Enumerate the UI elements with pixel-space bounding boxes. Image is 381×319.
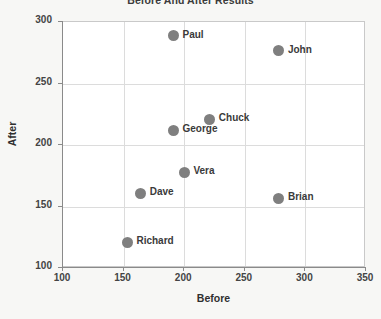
gridline-vertical	[305, 22, 306, 266]
data-point-label: Vera	[193, 165, 214, 176]
y-axis-tick	[58, 144, 62, 145]
x-axis-tick-label: 200	[163, 272, 203, 283]
y-axis-tick	[58, 267, 62, 268]
x-axis-tick	[244, 267, 245, 271]
gridline-vertical	[245, 22, 246, 266]
x-axis-tick	[123, 267, 124, 271]
data-point[interactable]	[179, 167, 190, 178]
y-axis-line	[62, 21, 63, 268]
chart-title: Before And After Results	[0, 0, 381, 6]
x-axis-tick	[62, 267, 63, 271]
y-axis-tick-label: 100	[8, 260, 52, 271]
y-axis-label: After	[6, 104, 18, 164]
y-axis-tick	[58, 21, 62, 22]
data-point-label: Paul	[183, 29, 204, 40]
data-point-label: George	[183, 123, 218, 134]
x-axis-tick	[304, 267, 305, 271]
y-axis-tick-label: 150	[8, 199, 52, 210]
data-point[interactable]	[135, 188, 146, 199]
data-point-label: Brian	[288, 191, 314, 202]
x-axis-tick-label: 100	[42, 272, 82, 283]
data-point-label: John	[288, 44, 312, 55]
x-axis-tick	[365, 267, 366, 271]
data-point[interactable]	[168, 125, 179, 136]
y-axis-tick	[58, 206, 62, 207]
y-axis-tick-label: 200	[8, 137, 52, 148]
x-axis-tick-label: 150	[103, 272, 143, 283]
gridline-vertical	[124, 22, 125, 266]
y-axis-tick	[58, 83, 62, 84]
gridline-horizontal	[63, 84, 364, 85]
y-axis-tick-label: 300	[8, 14, 52, 25]
x-axis-tick-label: 300	[284, 272, 324, 283]
plot-area	[62, 21, 365, 267]
data-point-label: Chuck	[219, 112, 250, 123]
gridline-horizontal	[63, 145, 364, 146]
data-point-label: Richard	[136, 235, 173, 246]
x-axis-tick-label: 350	[345, 272, 381, 283]
y-axis-tick-label: 250	[8, 76, 52, 87]
x-axis-line	[62, 267, 366, 268]
x-axis-tick	[183, 267, 184, 271]
data-point[interactable]	[122, 237, 133, 248]
gridline-vertical	[184, 22, 185, 266]
x-axis-tick-label: 250	[224, 272, 264, 283]
scatter-chart: Before And After Results PaulJohnChuckGe…	[0, 0, 381, 319]
x-axis-label: Before	[62, 292, 365, 304]
gridline-horizontal	[63, 207, 364, 208]
data-point-label: Dave	[150, 186, 174, 197]
